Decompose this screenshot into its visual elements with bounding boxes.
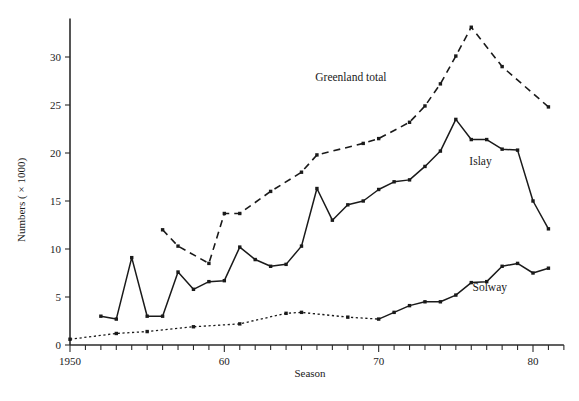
data-point-marker — [377, 188, 380, 191]
data-point-marker — [99, 315, 102, 318]
data-point-marker — [454, 293, 457, 296]
data-point-marker — [300, 171, 303, 174]
data-point-marker — [516, 148, 519, 151]
data-point-marker — [423, 104, 426, 107]
data-point-marker — [331, 219, 334, 222]
data-point-marker — [284, 263, 287, 266]
data-point-marker — [145, 315, 148, 318]
data-point-marker — [346, 203, 349, 206]
data-point-marker — [500, 265, 503, 268]
series-label-islay: Islay — [469, 155, 492, 168]
y-axis-tick-label: 20 — [50, 147, 62, 159]
data-point-marker — [470, 138, 473, 141]
data-point-marker — [439, 300, 442, 303]
x-axis-tick-label: 60 — [219, 355, 231, 367]
data-point-marker — [423, 300, 426, 303]
data-point-marker — [531, 271, 534, 274]
data-point-marker — [238, 245, 241, 248]
y-axis-tick-label: 30 — [50, 51, 62, 63]
series-line — [163, 27, 549, 263]
x-axis-tick-label: 70 — [373, 355, 385, 367]
data-point-marker — [115, 317, 118, 320]
data-point-marker — [500, 65, 503, 68]
data-point-marker — [362, 142, 365, 145]
data-point-marker — [454, 118, 457, 121]
data-point-marker — [439, 82, 442, 85]
x-axis-tick-label: 80 — [528, 355, 540, 367]
y-axis-tick-label: 5 — [56, 291, 62, 303]
data-point-marker — [284, 312, 287, 315]
y-axis-tick-label: 10 — [50, 243, 62, 255]
data-point-marker — [315, 153, 318, 156]
data-point-marker — [470, 26, 473, 29]
data-point-marker — [300, 244, 303, 247]
axes-group: 0510152025301950607080 — [50, 19, 564, 367]
series-line-solid-segment — [379, 263, 549, 319]
series-group — [68, 26, 550, 341]
data-point-marker — [207, 262, 210, 265]
data-point-marker — [516, 262, 519, 265]
data-point-marker — [115, 332, 118, 335]
y-axis-tick-label: 0 — [56, 339, 62, 351]
data-point-marker — [223, 279, 226, 282]
data-point-marker — [454, 54, 457, 57]
data-point-marker — [161, 315, 164, 318]
data-point-marker — [68, 338, 71, 341]
data-point-marker — [547, 105, 550, 108]
data-point-marker — [377, 137, 380, 140]
chart-container: 0510152025301950607080 Greenland totalIs… — [0, 0, 579, 401]
series-solway — [68, 262, 550, 341]
data-point-marker — [145, 330, 148, 333]
data-point-marker — [130, 256, 133, 259]
data-point-marker — [238, 212, 241, 215]
data-point-marker — [485, 138, 488, 141]
data-point-marker — [161, 228, 164, 231]
y-axis-tick-label: 25 — [50, 99, 62, 111]
data-point-marker — [176, 270, 179, 273]
data-point-marker — [315, 187, 318, 190]
data-point-marker — [531, 199, 534, 202]
y-axis-title: Numbers ( × 1000) — [15, 158, 28, 242]
data-point-marker — [500, 147, 503, 150]
data-point-marker — [176, 244, 179, 247]
series-labels-group: Greenland totalIslaySolway — [315, 71, 507, 294]
data-point-marker — [269, 190, 272, 193]
data-point-marker — [362, 199, 365, 202]
data-point-marker — [439, 149, 442, 152]
series-greenland-total — [161, 26, 550, 266]
data-point-marker — [408, 178, 411, 181]
data-point-marker — [423, 165, 426, 168]
line-chart: 0510152025301950607080 Greenland totalIs… — [0, 0, 579, 401]
data-point-marker — [254, 258, 257, 261]
data-point-marker — [223, 212, 226, 215]
data-point-marker — [192, 288, 195, 291]
x-axis-tick-label: 1950 — [59, 355, 82, 367]
data-point-marker — [408, 304, 411, 307]
series-label-solway: Solway — [473, 281, 508, 294]
series-label-greenland-total: Greenland total — [315, 71, 386, 83]
data-point-marker — [192, 325, 195, 328]
data-point-marker — [377, 317, 380, 320]
data-point-marker — [238, 322, 241, 325]
data-point-marker — [346, 315, 349, 318]
data-point-marker — [392, 311, 395, 314]
y-axis-tick-label: 15 — [50, 195, 62, 207]
x-axis-title: Season — [294, 367, 326, 379]
data-point-marker — [547, 227, 550, 230]
data-point-marker — [547, 267, 550, 270]
data-point-marker — [392, 180, 395, 183]
data-point-marker — [207, 280, 210, 283]
data-point-marker — [300, 311, 303, 314]
data-point-marker — [408, 121, 411, 124]
data-point-marker — [269, 265, 272, 268]
